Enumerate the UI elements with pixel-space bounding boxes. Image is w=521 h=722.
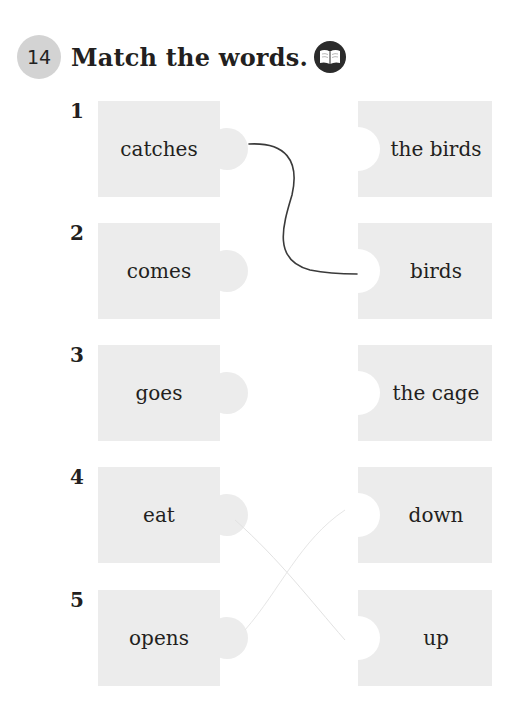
row-number: 2 — [70, 221, 84, 245]
right-puzzle-piece[interactable]: up — [358, 590, 492, 686]
left-word: opens — [98, 590, 220, 686]
left-puzzle-piece[interactable]: comes — [98, 223, 220, 319]
match-row-2: 2 comes birds — [0, 221, 521, 321]
row-number: 5 — [70, 588, 84, 612]
left-puzzle-piece[interactable]: goes — [98, 345, 220, 441]
puzzle-notch — [358, 371, 380, 415]
puzzle-notch — [358, 249, 380, 293]
right-word: up — [380, 590, 492, 686]
exercise-title: Match the words. — [71, 43, 308, 72]
left-word: catches — [98, 101, 220, 197]
match-row-3: 3 goes the cage — [0, 343, 521, 443]
puzzle-notch — [358, 616, 380, 660]
row-number: 3 — [70, 343, 84, 367]
right-word: the cage — [380, 345, 492, 441]
right-word: the birds — [380, 101, 492, 197]
match-row-1: 1 catches the birds — [0, 99, 521, 199]
match-row-5: 5 opens up — [0, 588, 521, 688]
left-word: eat — [98, 467, 220, 563]
right-word: down — [380, 467, 492, 563]
match-row-4: 4 eat down — [0, 465, 521, 565]
row-number: 1 — [70, 99, 84, 123]
row-number: 4 — [70, 465, 84, 489]
exercise-header: 14 Match the words. — [17, 33, 346, 81]
puzzle-notch — [358, 493, 380, 537]
left-puzzle-piece[interactable]: catches — [98, 101, 220, 197]
right-puzzle-piece[interactable]: the birds — [358, 101, 492, 197]
right-puzzle-piece[interactable]: birds — [358, 223, 492, 319]
puzzle-notch — [358, 127, 380, 171]
right-word: birds — [380, 223, 492, 319]
left-word: comes — [98, 223, 220, 319]
left-word: goes — [98, 345, 220, 441]
right-puzzle-piece[interactable]: down — [358, 467, 492, 563]
book-icon — [314, 41, 346, 73]
right-puzzle-piece[interactable]: the cage — [358, 345, 492, 441]
left-puzzle-piece[interactable]: opens — [98, 590, 220, 686]
left-puzzle-piece[interactable]: eat — [98, 467, 220, 563]
exercise-number-badge: 14 — [17, 35, 61, 79]
